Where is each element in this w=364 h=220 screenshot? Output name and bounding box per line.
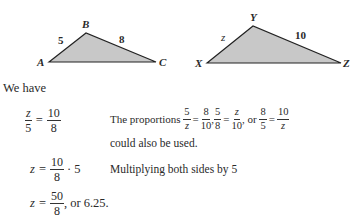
vertex-x: X	[195, 57, 202, 69]
vertex-c: C	[159, 56, 166, 68]
alternate-proportions-note-suffix: could also be used.	[110, 137, 198, 149]
equation-1: z5 = 108	[25, 107, 61, 134]
side-xy-length: z	[221, 31, 225, 43]
vertex-a: A	[37, 56, 44, 68]
alternate-proportions-note: The proportions 5z = 810, 58 = z10 , or …	[110, 107, 289, 131]
multiply-step-note: Multiplying both sides by 5	[110, 163, 237, 175]
triangle-abc	[49, 33, 156, 62]
side-ab-length: 5	[58, 34, 64, 46]
similar-triangles-figure	[0, 0, 364, 80]
intro-text: We have	[3, 81, 46, 96]
equation-2: z = 108 · 5	[30, 156, 80, 183]
vertex-b: B	[82, 18, 89, 30]
side-bc-length: 8	[119, 33, 125, 45]
equation-3: z = 508 , or 6.25.	[30, 190, 109, 217]
triangle-xyz	[207, 26, 341, 63]
vertex-z: Z	[343, 57, 350, 69]
side-yz-length: 10	[295, 29, 306, 41]
vertex-y: Y	[250, 11, 257, 23]
